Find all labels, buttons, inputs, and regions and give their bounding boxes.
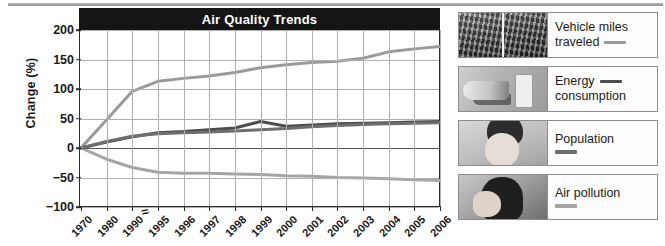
- legend-text: Population: [548, 121, 657, 165]
- x-tick-mark: [235, 206, 236, 211]
- air-quality-chart: Change (%) Air Quality Trends 2001501005…: [0, 8, 452, 246]
- legend-thumbnail-baby-photo: [459, 121, 548, 165]
- x-tick-label: 2006: [428, 213, 454, 239]
- y-tick-mark: [76, 147, 81, 149]
- legend-thumbnail-hand-light-switch-photo: [459, 67, 548, 111]
- gridline-horizontal: [80, 207, 439, 208]
- gridline-vertical: [337, 30, 338, 206]
- y-tick-mark: [76, 88, 81, 90]
- y-tick-label: 200: [53, 23, 74, 37]
- legend-text: Air pollution: [548, 175, 657, 219]
- y-tick-mark: [76, 177, 81, 179]
- x-tick-mark: [440, 206, 441, 211]
- legend-item[interactable]: Energyconsumption: [458, 66, 658, 112]
- gridline-vertical: [440, 30, 441, 206]
- x-tick-label: 2002: [325, 213, 351, 239]
- legend-thumbnail-person-coughing-photo: [459, 175, 548, 219]
- gridline-horizontal: [80, 178, 439, 179]
- y-tick-label: 50: [60, 112, 74, 126]
- x-tick-label: 1980: [94, 213, 120, 239]
- thumbnail-art: [459, 67, 547, 111]
- thumbnail-art: [459, 121, 547, 165]
- chart-legend: Vehicle milestraveledEnergyconsumptionPo…: [458, 12, 658, 228]
- gridline-vertical: [414, 30, 415, 206]
- x-tick-label: 1970: [69, 213, 95, 239]
- x-tick-mark: [261, 206, 262, 211]
- x-tick-mark: [312, 206, 313, 211]
- legend-label: traveled: [555, 35, 599, 50]
- x-tick-mark: [158, 206, 159, 211]
- thumbnail-art: [459, 13, 547, 57]
- y-tick-mark: [76, 118, 81, 120]
- legend-item[interactable]: Population: [458, 120, 658, 166]
- gridline-vertical: [158, 30, 159, 206]
- gridline-vertical: [184, 30, 185, 206]
- plot-area: 200150100500−50−100197019801990199519961…: [79, 30, 440, 207]
- legend-label-row: consumption: [555, 89, 650, 104]
- gridline-horizontal: [80, 30, 439, 31]
- legend-label: Population: [555, 132, 614, 147]
- legend-label-row: Vehicle miles: [555, 20, 650, 35]
- gridline-horizontal: [80, 60, 439, 61]
- x-tick-mark: [107, 206, 108, 211]
- legend-thumbnail-traffic-jam-photo: [459, 13, 548, 57]
- gridline-vertical: [132, 30, 133, 206]
- legend-item[interactable]: Air pollution: [458, 174, 658, 220]
- x-tick-mark: [414, 206, 415, 211]
- legend-label: Air pollution: [555, 186, 620, 201]
- y-tick-mark: [76, 59, 81, 61]
- legend-label: consumption: [555, 89, 626, 104]
- gridline-horizontal: [80, 148, 439, 149]
- x-tick-label: 1997: [197, 213, 223, 239]
- legend-label: Energy: [555, 74, 595, 89]
- gridline-vertical: [363, 30, 364, 206]
- x-tick-mark: [209, 206, 210, 211]
- legend-item[interactable]: Vehicle milestraveled: [458, 12, 658, 58]
- chart-title: Air Quality Trends: [79, 8, 440, 30]
- x-tick-mark: [286, 206, 287, 211]
- legend-color-swatch: [600, 80, 622, 83]
- legend-color-swatch: [555, 204, 577, 207]
- y-tick-label: 150: [53, 53, 74, 67]
- gridline-horizontal: [80, 89, 439, 90]
- x-tick-label: 1990: [120, 213, 146, 239]
- legend-color-swatch: [555, 150, 577, 153]
- gridline-vertical: [389, 30, 390, 206]
- legend-swatch-row: [555, 204, 650, 207]
- x-tick-mark: [132, 206, 133, 211]
- x-tick-label: 2004: [376, 213, 402, 239]
- y-tick-label: 100: [53, 82, 74, 96]
- legend-swatch-row: [555, 150, 650, 153]
- y-tick-label: −100: [46, 200, 74, 214]
- top-divider-rule: [8, 3, 663, 6]
- x-tick-mark: [184, 206, 185, 211]
- legend-text: Vehicle milestraveled: [548, 13, 657, 57]
- thumbnail-art: [459, 175, 547, 219]
- legend-label: Vehicle miles: [555, 20, 628, 35]
- legend-color-swatch: [604, 41, 626, 44]
- y-tick-label: −50: [53, 171, 74, 185]
- legend-text: Energyconsumption: [548, 67, 657, 111]
- legend-label-row: Population: [555, 132, 650, 147]
- gridline-vertical: [235, 30, 236, 206]
- y-axis-title: Change (%): [24, 38, 38, 148]
- gridline-vertical: [286, 30, 287, 206]
- legend-label-row: Energy: [555, 74, 650, 89]
- plot-wrapper: Air Quality Trends 200150100500−50−10019…: [79, 8, 440, 207]
- x-tick-label: 2005: [402, 213, 428, 239]
- x-tick-label: 2003: [351, 213, 377, 239]
- legend-label-row: Air pollution: [555, 186, 650, 201]
- x-tick-label: 1999: [248, 213, 274, 239]
- x-tick-label: 2000: [274, 213, 300, 239]
- gridline-vertical: [209, 30, 210, 206]
- x-tick-mark: [81, 206, 82, 211]
- gridline-vertical: [312, 30, 313, 206]
- x-tick-label: 1998: [223, 213, 249, 239]
- y-tick-label: 0: [67, 141, 74, 155]
- x-tick-mark: [337, 206, 338, 211]
- gridline-vertical: [261, 30, 262, 206]
- gridline-vertical: [107, 30, 108, 206]
- x-tick-label: 1996: [171, 213, 197, 239]
- x-tick-mark: [363, 206, 364, 211]
- gridline-horizontal: [80, 119, 439, 120]
